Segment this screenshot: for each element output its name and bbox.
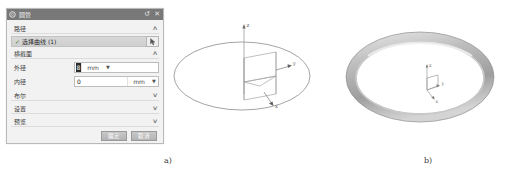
group-label-settings: 设置: [14, 104, 153, 113]
close-icon[interactable]: ✕: [154, 9, 160, 20]
chevron-down-icon[interactable]: ▼: [104, 63, 112, 72]
dialog-body: 路径 ∧ ✓ 选择曲线 (1) 横截面 ∧ 外径 8 mm ▼: [7, 20, 163, 127]
group-label-boolean: 布尔: [14, 91, 153, 100]
axis-label-z: z: [247, 22, 250, 28]
axis-label-y: y: [292, 60, 296, 67]
inner-diameter-value[interactable]: 0: [75, 77, 127, 86]
group-header-boolean[interactable]: 布尔 ∨: [11, 90, 159, 101]
group-header-preview[interactable]: 预览 ∨: [11, 116, 159, 127]
axis-z-arrow: [242, 24, 245, 29]
axis-label-x: x: [275, 103, 278, 109]
axis-x-line: [264, 92, 272, 104]
param-row-inner-diameter: 内径 0 mm ▼: [11, 75, 159, 87]
select-curve-label: 选择曲线 (1): [22, 37, 146, 46]
cancel-button[interactable]: 取消: [131, 131, 157, 141]
group-header-settings[interactable]: 设置 ∨: [11, 103, 159, 114]
select-curve-row[interactable]: ✓ 选择曲线 (1): [11, 36, 159, 47]
viewport-path-preview[interactable]: z y x: [172, 14, 322, 134]
axis-label-y: y: [441, 81, 445, 86]
gear-icon: [9, 11, 16, 18]
group-header-path[interactable]: 路径 ∧: [11, 23, 159, 34]
rectangular-section-outline: [244, 52, 276, 100]
outer-diameter-field[interactable]: 8 mm ▼: [74, 62, 159, 73]
caption-a: a): [164, 156, 172, 165]
label-outer-diameter: 外径: [14, 63, 74, 72]
group-label-cross-section: 横截面: [14, 49, 153, 58]
cursor-arrow-icon: [149, 38, 157, 46]
chevron-down-icon[interactable]: ∨: [152, 105, 158, 111]
circular-path-ellipse: [174, 42, 310, 110]
caption-b: b): [424, 156, 432, 165]
param-row-outer-diameter: 外径 8 mm ▼: [11, 61, 159, 73]
reset-icon[interactable]: ↺: [144, 9, 150, 20]
ok-button[interactable]: 确定: [101, 131, 127, 141]
dialog-footer: 确定 取消: [7, 131, 163, 141]
inner-diameter-field[interactable]: 0 mm ▼: [74, 76, 159, 87]
group-label-path: 路径: [14, 24, 153, 33]
chevron-up-icon[interactable]: ∧: [152, 50, 158, 56]
cursor-select-icon[interactable]: [146, 36, 159, 47]
check-icon: ✓: [15, 39, 20, 45]
label-inner-diameter: 内径: [14, 77, 74, 86]
chevron-down-icon[interactable]: ∨: [152, 118, 158, 124]
inner-diameter-unit[interactable]: mm: [127, 77, 150, 86]
group-label-preview: 预览: [14, 117, 153, 126]
tube-dialog[interactable]: 圆管 ↺ ✕ 路径 ∧ ✓ 选择曲线 (1) 横截面 ∧ 外径: [6, 8, 164, 144]
chevron-down-icon[interactable]: ∨: [152, 92, 158, 98]
chevron-up-icon[interactable]: ∧: [152, 25, 158, 31]
outer-diameter-unit[interactable]: mm: [81, 63, 104, 72]
chevron-down-icon[interactable]: ▼: [150, 77, 158, 86]
axis-y-arrow: [288, 64, 293, 68]
dialog-title: 圆管: [19, 9, 144, 20]
viewport-tube-result[interactable]: z y x: [338, 20, 503, 135]
group-header-cross-section[interactable]: 横截面 ∧: [11, 48, 159, 59]
titlebar-buttons: ↺ ✕: [144, 9, 160, 20]
dialog-titlebar[interactable]: 圆管 ↺ ✕: [7, 9, 163, 20]
